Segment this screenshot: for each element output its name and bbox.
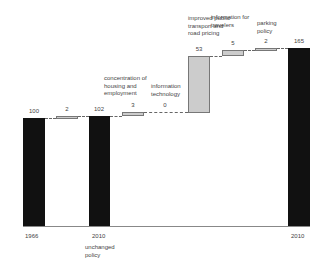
bar-concentration [122,112,144,116]
value-label: 3 [118,102,148,108]
bar-info-travelers [222,50,244,56]
connector-info-tech [144,112,188,113]
connector [277,48,288,49]
connector [78,116,89,117]
bar-delta-2 [56,116,78,119]
x-axis [23,226,310,227]
bar-1966 [23,118,45,226]
bar-parking [255,48,277,51]
label-info-tech: information technology [151,83,181,98]
bar-2010-unchanged [89,116,110,226]
label-info-travelers: information for travelers [211,14,249,29]
value-label: 0 [150,102,180,108]
x-sublabel-unchanged: unchanged policy [85,244,115,259]
value-label: 53 [184,46,214,52]
connector [244,50,255,51]
bar-2010-final [288,48,310,226]
value-label: 100 [19,108,49,114]
label-parking: parking policy [257,20,277,35]
x-tick-2010: 2010 [92,233,105,239]
x-tick-1966: 1966 [25,233,38,239]
value-label: 165 [284,38,314,44]
value-label: 102 [84,106,114,112]
value-label: 5 [218,40,248,46]
connector [45,118,56,119]
label-concentration: concentration of housing and employment [104,75,147,98]
value-label: 2 [52,106,82,112]
value-label: 2 [251,38,281,44]
x-tick-2010-final: 2010 [291,233,304,239]
connector [210,56,222,57]
bar-public-transport [188,56,210,113]
connector [110,116,122,117]
